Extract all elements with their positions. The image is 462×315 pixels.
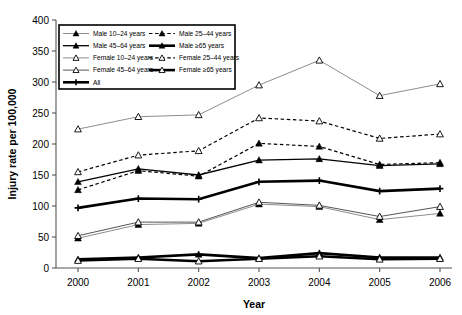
y-tick-label: 0 bbox=[43, 263, 49, 274]
data-series bbox=[75, 201, 444, 241]
data-point-marker bbox=[376, 188, 383, 195]
data-point-marker bbox=[316, 177, 323, 184]
y-tick-label: 400 bbox=[32, 15, 49, 26]
data-point-marker bbox=[256, 82, 263, 88]
legend-label: All bbox=[93, 79, 101, 86]
y-tick-label: 200 bbox=[32, 139, 49, 150]
data-point-marker bbox=[437, 203, 444, 209]
y-tick-label: 250 bbox=[32, 108, 49, 119]
legend-label: Female 45–64 years bbox=[93, 66, 154, 74]
data-point-marker bbox=[437, 80, 444, 86]
data-point-marker bbox=[256, 115, 263, 121]
legend-label: Female 25–44 years bbox=[179, 54, 240, 62]
x-tick-label: 2000 bbox=[67, 277, 90, 288]
x-tick-label: 2001 bbox=[127, 277, 150, 288]
legend-label: Female 10–24 years bbox=[93, 54, 154, 62]
data-point-marker bbox=[195, 196, 202, 203]
legend-label: Male 45–64 years bbox=[93, 42, 146, 50]
legend-label: Male 25–44 years bbox=[179, 30, 232, 38]
data-point-marker bbox=[437, 210, 444, 216]
data-point-marker bbox=[316, 57, 323, 63]
data-point-marker bbox=[75, 204, 82, 211]
x-tick-label: 2005 bbox=[369, 277, 392, 288]
y-tick-label: 100 bbox=[32, 201, 49, 212]
x-tick-label: 2003 bbox=[248, 277, 271, 288]
y-tick-label: 150 bbox=[32, 170, 49, 181]
x-tick-label: 2004 bbox=[308, 277, 331, 288]
data-point-marker bbox=[135, 152, 142, 158]
x-tick-label: 2002 bbox=[188, 277, 211, 288]
y-tick-label: 350 bbox=[32, 46, 49, 57]
legend-label: Male 10–24 years bbox=[93, 30, 146, 38]
data-point-marker bbox=[437, 185, 444, 192]
y-axis-title: Injury rate per 100,000 bbox=[6, 88, 18, 199]
legend: Male 10–24 yearsMale 25–44 yearsMale 45–… bbox=[59, 25, 240, 89]
series-line bbox=[78, 204, 440, 238]
legend-label: Female ≥65 years bbox=[179, 66, 232, 74]
data-point-marker bbox=[256, 178, 263, 185]
data-point-marker bbox=[316, 118, 323, 124]
injury-rate-line-chart: 0501001502002503003504002000200120022003… bbox=[0, 0, 462, 315]
data-point-marker bbox=[256, 140, 263, 146]
x-tick-label: 2006 bbox=[429, 277, 452, 288]
data-point-marker bbox=[195, 147, 202, 153]
y-tick-label: 300 bbox=[32, 77, 49, 88]
legend-label: Male ≥65 years bbox=[179, 42, 225, 50]
x-axis-title: Year bbox=[243, 298, 265, 310]
data-series bbox=[75, 253, 444, 264]
y-tick-label: 50 bbox=[38, 232, 50, 243]
data-point-marker bbox=[135, 195, 142, 202]
chart-canvas: 0501001502002503003504002000200120022003… bbox=[0, 0, 462, 315]
